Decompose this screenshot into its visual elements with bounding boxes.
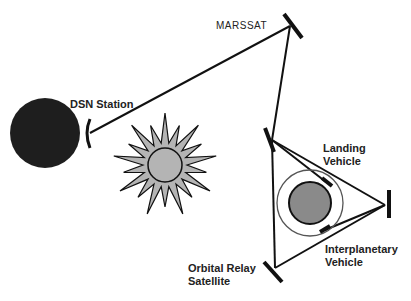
dsn-dish-icon [87,119,90,148]
link-dsn-marssat [90,26,290,133]
orbital-relay-label-1: Orbital Relay [188,262,256,274]
link-landing [272,140,326,182]
dsn-station-label: DSN Station [70,98,134,110]
interplanetary-label-2: Vehicle [325,256,363,268]
link-marssat-relay [272,26,290,140]
landing-vehicle-icon [322,178,332,186]
orbital-relay-label-2: Satellite [188,275,230,287]
mars-relay-diagram: MARSSAT DSN Station Landing Vehicle Inte… [0,0,411,301]
link-bottom-top [272,140,275,268]
sun-icon [114,113,216,214]
marssat-satellite-icon [284,14,302,38]
landing-vehicle-label-2: Vehicle [323,155,361,167]
landing-vehicle-label-1: Landing [323,142,366,154]
marssat-label: MARSSAT [216,20,267,32]
interplanetary-label-1: Interplanetary [325,243,398,255]
mars-icon [289,182,331,224]
